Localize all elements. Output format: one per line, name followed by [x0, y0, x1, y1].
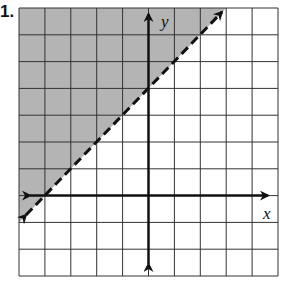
coordinate-graph: y x: [0, 0, 281, 293]
y-axis-label: y: [159, 12, 169, 31]
x-axis-label: x: [262, 204, 271, 223]
